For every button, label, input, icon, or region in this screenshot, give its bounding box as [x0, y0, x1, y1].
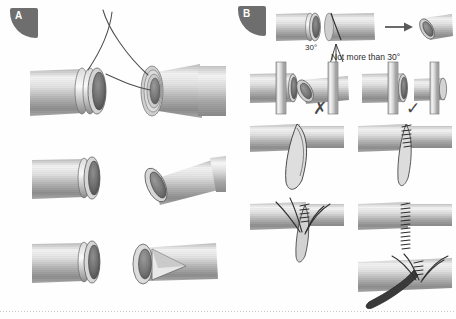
- panel-a-row3-right-tube-spatulated: [133, 243, 218, 284]
- panel-a-artwork: [30, 10, 226, 284]
- panel-b-row3-right: [358, 124, 452, 186]
- illustration-figure: A B 30° Not more than 30° ✗ ✓: [0, 0, 456, 319]
- panel-b-row5: [358, 254, 452, 309]
- panel-b-row4-left: [250, 198, 344, 262]
- panel-a-stay-sutures: [88, 10, 150, 90]
- illustration-artwork: [0, 0, 456, 319]
- panel-a-row2-left-tube: [32, 157, 100, 199]
- angle-label-30: 30°: [305, 43, 317, 52]
- angle-rule-label: Not more than 30°: [331, 52, 400, 62]
- panel-b-row1-tube-beveled-result: [417, 14, 453, 42]
- arrow-right-icon: [385, 23, 413, 32]
- panel-b-row4-right: [358, 202, 452, 249]
- panel-b-row2-config-1: [250, 62, 298, 114]
- panel-a-row1-right-tube: [141, 64, 226, 118]
- bottom-divider: [0, 311, 456, 312]
- panel-b-row2-config-3: [362, 62, 408, 114]
- panel-label-b-text: B: [243, 9, 250, 19]
- panel-b-row1-tube-cutline: [325, 13, 376, 41]
- panel-label-b: B: [238, 6, 266, 36]
- panel-a-row2-right-tube-beveled: [140, 156, 226, 205]
- panel-b-row1-tube-straight: [276, 13, 321, 41]
- panel-b-row3-left: [250, 124, 344, 189]
- panel-a-row3-left-tube: [32, 241, 100, 283]
- cross-mark-icon: ✗: [313, 100, 327, 117]
- check-mark-icon: ✓: [406, 100, 420, 117]
- panel-a-row1-left-tube: [30, 68, 106, 116]
- panel-label-a-text: A: [15, 11, 22, 21]
- panel-label-a: A: [10, 8, 38, 38]
